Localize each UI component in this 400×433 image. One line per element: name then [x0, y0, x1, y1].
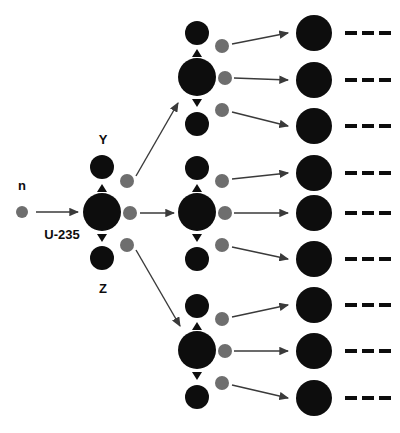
uranium-label: U-235: [44, 227, 79, 242]
arrow-middle-to-product-4: [232, 173, 288, 179]
gen2-3-neutron-3: [215, 376, 229, 390]
product-nucleus-7: [296, 287, 332, 323]
product-nucleus-3-dash-1: [345, 124, 357, 128]
gen2-2-fragment-bottom: [185, 247, 209, 271]
arrow-middle-to-product-6: [232, 247, 288, 259]
gen1-recoil-arrow-up: [97, 184, 107, 192]
product-nucleus-3-dash-2: [362, 124, 374, 128]
gen2-2-neutron-3: [215, 238, 229, 252]
gen2-2-recoil-arrow-up: [192, 184, 202, 192]
gen2-3-recoil-arrow-down: [192, 372, 202, 380]
product-nucleus-4-dash-1: [345, 171, 357, 175]
arrow-bottom-to-product-9: [232, 385, 288, 398]
product-nucleus-2-dash-1: [345, 78, 357, 82]
fragment-z-label: Z: [99, 281, 107, 296]
incident-neutron: [16, 206, 28, 218]
arrow-to-bottom-node: [136, 250, 180, 326]
gen2-1-recoil-arrow-down: [192, 99, 202, 107]
gen1-fragment-top: [90, 155, 114, 179]
gen2-1-fragment-top: [185, 21, 209, 45]
gen2-3-fragment-bottom: [185, 385, 209, 409]
node-layer: [16, 21, 232, 409]
product-nucleus-4-dash-2: [362, 171, 374, 175]
gen2-3-nucleus: [178, 331, 216, 369]
gen2-2-neutron-1: [215, 174, 229, 188]
product-nucleus-8-dash-2: [362, 349, 374, 353]
product-layer: [296, 15, 391, 416]
product-nucleus-2-dash-2: [362, 78, 374, 82]
arrow-to-top-node: [136, 103, 178, 176]
product-nucleus-9-dash-3: [379, 396, 391, 400]
product-nucleus-3-dash-3: [379, 124, 391, 128]
gen2-1-neutron-1: [215, 39, 229, 53]
gen2-2-nucleus: [178, 193, 216, 231]
product-nucleus-5-dash-2: [362, 211, 374, 215]
arrow-bottom-to-product-7: [232, 305, 288, 317]
gen2-3-recoil-arrow-up: [192, 322, 202, 330]
product-nucleus-8: [296, 333, 332, 369]
gen1-fragment-bottom: [90, 246, 114, 270]
product-nucleus-4-dash-3: [379, 171, 391, 175]
gen1-recoil-arrow-down: [97, 234, 107, 242]
product-nucleus-7-dash-1: [345, 303, 357, 307]
product-nucleus-7-dash-2: [362, 303, 374, 307]
product-nucleus-8-dash-3: [379, 349, 391, 353]
arrow-top-to-product-1: [232, 33, 288, 44]
gen2-3-neutron-1: [215, 312, 229, 326]
product-nucleus-6-dash-2: [362, 257, 374, 261]
gen2-3-neutron-2: [218, 344, 232, 358]
gen2-1-neutron-2: [218, 71, 232, 85]
gen2-3-fragment-top: [185, 294, 209, 318]
product-nucleus-5-dash-3: [379, 211, 391, 215]
gen2-1-neutron-3: [215, 103, 229, 117]
arrow-layer: [36, 33, 288, 398]
gen2-1-recoil-arrow-up: [192, 49, 202, 57]
gen1-nucleus: [83, 193, 121, 231]
product-nucleus-5: [296, 195, 332, 231]
chain-reaction-canvas: nU-235YZ: [0, 0, 400, 433]
product-nucleus-2: [296, 62, 332, 98]
product-nucleus-3: [296, 108, 332, 144]
chain-reaction-diagram: nU-235YZ: [0, 0, 400, 433]
product-nucleus-9-dash-1: [345, 396, 357, 400]
gen2-1-nucleus: [178, 58, 216, 96]
gen1-neutron-3: [120, 238, 134, 252]
product-nucleus-6-dash-1: [345, 257, 357, 261]
incident-neutron-label: n: [18, 178, 26, 193]
product-nucleus-2-dash-3: [379, 78, 391, 82]
arrow-top-to-product-3: [232, 112, 288, 126]
gen2-2-neutron-2: [218, 206, 232, 220]
product-nucleus-9-dash-2: [362, 396, 374, 400]
gen2-2-fragment-top: [185, 156, 209, 180]
gen2-1-fragment-bottom: [185, 112, 209, 136]
product-nucleus-1-dash-1: [345, 31, 357, 35]
product-nucleus-6: [296, 241, 332, 277]
product-nucleus-9: [296, 380, 332, 416]
arrow-top-to-product-2: [234, 78, 288, 80]
product-nucleus-4: [296, 155, 332, 191]
product-nucleus-6-dash-3: [379, 257, 391, 261]
fragment-y-label: Y: [99, 132, 108, 147]
gen1-neutron-2: [123, 206, 137, 220]
product-nucleus-1-dash-2: [362, 31, 374, 35]
product-nucleus-5-dash-1: [345, 211, 357, 215]
product-nucleus-7-dash-3: [379, 303, 391, 307]
gen2-2-recoil-arrow-down: [192, 234, 202, 242]
product-nucleus-1-dash-3: [379, 31, 391, 35]
product-nucleus-8-dash-1: [345, 349, 357, 353]
product-nucleus-1: [296, 15, 332, 51]
gen1-neutron-1: [120, 174, 134, 188]
